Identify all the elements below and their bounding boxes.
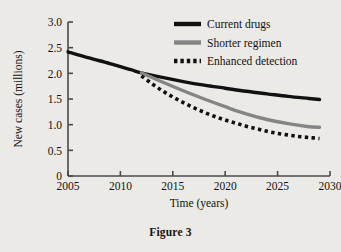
y-axis-tick-label: 2.0 — [48, 68, 63, 80]
y-axis-title: New cases (millions) — [12, 50, 25, 147]
x-axis-tick-label: 2015 — [161, 180, 184, 192]
legend-label-1: Shorter regimen — [207, 37, 282, 50]
y-axis-tick-label: 3.0 — [48, 16, 63, 28]
y-axis-tick-label: 0.5 — [48, 145, 63, 157]
figure-3: 00.51.01.52.02.53.0200520102015202020252… — [0, 0, 341, 252]
legend-label-0: Current drugs — [207, 18, 271, 31]
x-axis-tick-label: 2025 — [266, 180, 289, 192]
figure-caption: Figure 3 — [0, 226, 341, 238]
y-axis-tick-label: 1.5 — [48, 93, 63, 105]
x-axis-tick-label: 2020 — [214, 180, 237, 192]
y-axis-tick-label: 1.0 — [48, 119, 63, 131]
legend-label-2: Enhanced detection — [207, 55, 298, 67]
y-axis-tick-label: 2.5 — [48, 42, 63, 54]
x-axis-tick-label: 2030 — [319, 180, 341, 192]
x-axis-tick-label: 2005 — [57, 180, 80, 192]
x-axis-title: Time (years) — [170, 197, 229, 210]
series-line-1 — [141, 73, 319, 127]
line-chart: 00.51.01.52.02.53.0200520102015202020252… — [0, 0, 341, 252]
x-axis-tick-label: 2010 — [109, 180, 132, 192]
